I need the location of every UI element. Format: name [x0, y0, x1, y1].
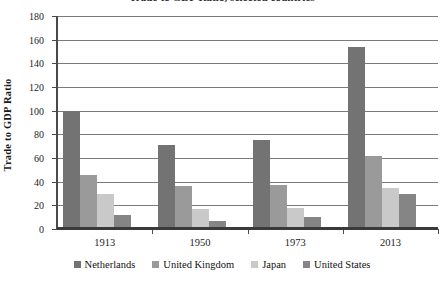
- legend-swatch-icon: [74, 261, 81, 268]
- x-tick-label-1913: 1913: [57, 237, 152, 248]
- x-tick-label-1973: 1973: [248, 237, 343, 248]
- bar-united-states-2013: [399, 194, 416, 230]
- y-tick-label: 120: [29, 82, 44, 93]
- chart-legend: NetherlandsUnited KingdomJapanUnited Sta…: [0, 259, 444, 270]
- x-tick-label-2013: 2013: [343, 237, 438, 248]
- bar-netherlands-1973: [253, 140, 270, 229]
- bar-japan-1950: [192, 209, 209, 229]
- bar-united-kingdom-1973: [270, 185, 287, 229]
- plot-area: 020406080100120140160180 191319501973201…: [57, 16, 438, 229]
- legend-item-japan[interactable]: Japan: [251, 259, 286, 270]
- bar-netherlands-2013: [348, 47, 365, 229]
- y-tick-label: 80: [34, 129, 44, 140]
- y-tick-label: 140: [29, 58, 44, 69]
- bar-group: [158, 16, 226, 229]
- bar-netherlands-1913: [63, 111, 80, 229]
- x-axis-line: [57, 227, 438, 230]
- bar-netherlands-1950: [158, 145, 175, 229]
- y-axis-title: Trade to GDP Ratio: [2, 10, 16, 240]
- legend-item-united-kingdom[interactable]: United Kingdom: [152, 259, 234, 270]
- bar-japan-1973: [287, 208, 304, 229]
- y-axis-line: [56, 16, 58, 230]
- bar-japan-1913: [97, 194, 114, 230]
- bar-group: [348, 16, 416, 229]
- legend-swatch-icon: [152, 261, 159, 268]
- y-tick-label: 0: [39, 224, 44, 235]
- y-tick-label: 60: [34, 153, 44, 164]
- bar-group: [253, 16, 321, 229]
- bar-japan-2013: [382, 188, 399, 229]
- bar-united-kingdom-1913: [80, 175, 97, 229]
- y-tick-label: 180: [29, 11, 44, 22]
- legend-label: United Kingdom: [163, 259, 234, 270]
- legend-swatch-icon: [303, 261, 310, 268]
- chart-title-clipped: Trade to GDP Ratio, selected countries: [0, 0, 444, 9]
- chart-figure: Trade to GDP Ratio, selected countries T…: [0, 0, 444, 283]
- legend-label: Japan: [262, 259, 286, 270]
- bar-united-kingdom-1950: [175, 186, 192, 229]
- y-tick-label: 20: [34, 200, 44, 211]
- legend-label: Netherlands: [85, 259, 136, 270]
- legend-swatch-icon: [251, 261, 258, 268]
- y-tick-label: 40: [34, 176, 44, 187]
- y-tick-label: 100: [29, 105, 44, 116]
- bar-group: [63, 16, 131, 229]
- x-tick: [438, 229, 439, 234]
- y-tick-label: 160: [29, 34, 44, 45]
- legend-item-netherlands[interactable]: Netherlands: [74, 259, 136, 270]
- bar-united-kingdom-2013: [365, 156, 382, 229]
- legend-label: United States: [314, 259, 370, 270]
- chart-title: Trade to GDP Ratio, selected countries: [0, 0, 444, 3]
- x-tick-label-1950: 1950: [152, 237, 247, 248]
- legend-item-united-states[interactable]: United States: [303, 259, 370, 270]
